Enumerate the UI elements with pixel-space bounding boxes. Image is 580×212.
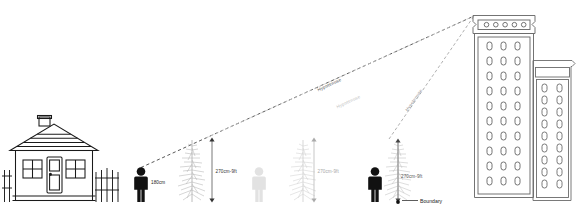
observer-group-2: 270cm-9ft: [252, 138, 339, 203]
house-window-right: [66, 160, 85, 178]
tree-1: [178, 140, 205, 202]
sightline-2: Hypotenuse: [206, 16, 474, 138]
house-roof: [10, 124, 98, 151]
tower-main-windows: [487, 42, 520, 185]
person-1: [134, 167, 148, 202]
tower-secondary-windows: [542, 84, 562, 188]
house: [10, 116, 98, 201]
house-door: [47, 157, 62, 193]
sightline-3: Hypotenuse: [389, 16, 474, 139]
sightline-2-label: Hypotenuse: [336, 94, 362, 109]
tree-1-dimension: 270cm-9ft: [209, 138, 237, 203]
person-3: [368, 167, 382, 202]
tower-secondary: [533, 61, 575, 201]
tree-2-height-label: 270cm-9ft: [318, 169, 340, 174]
house-chimney: [38, 116, 52, 127]
fence-left: [2, 170, 12, 202]
boundary-marker: Boundary: [396, 198, 443, 204]
tree-2: [289, 140, 316, 202]
observer-group-3: 270cm-9ft Boundary: [368, 139, 442, 204]
sightline-1-label: Hypotenuse: [317, 77, 343, 92]
sight-line-diagram: Hypotenuse Hypotenuse Hypotenuse 180cm 2…: [0, 0, 580, 212]
tower-main-portholes: [484, 22, 526, 27]
fence-right: [95, 168, 119, 202]
tree-3: [384, 140, 411, 202]
tree-1-height-label: 270cm-9ft: [216, 169, 238, 174]
tree-3-height-label: 270cm-9ft: [401, 174, 423, 179]
house-window-left: [23, 160, 42, 178]
sightline-3-label: Hypotenuse: [404, 88, 423, 112]
tree-2-dimension: 270cm-9ft: [311, 138, 339, 203]
boundary-label: Boundary: [420, 198, 443, 204]
diagram-canvas: Hypotenuse Hypotenuse Hypotenuse 180cm 2…: [0, 0, 580, 212]
person-2: [252, 167, 266, 202]
observer-1-height-label: 180cm: [151, 180, 165, 185]
tower-main: [473, 16, 535, 198]
house-base: [13, 196, 96, 201]
